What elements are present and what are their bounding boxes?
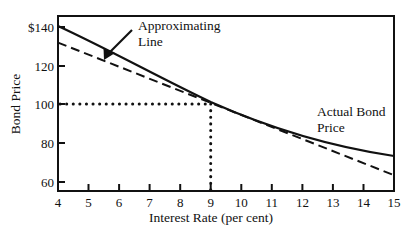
bond-price-chart: $140 120 100 80 60 4 5 6 7 8 9 10 11 12 … (0, 0, 417, 238)
y-tick-label: 80 (41, 136, 54, 151)
annotation-arrow (109, 30, 132, 53)
x-tick-label: 5 (85, 195, 92, 210)
y-tick-label: $140 (28, 20, 54, 35)
x-tick-label: 12 (296, 195, 309, 210)
x-tick-label: 15 (388, 195, 401, 210)
actual-bond-price-curve (58, 26, 394, 156)
x-axis-ticks (89, 184, 364, 191)
approximating-line-label-1: Approximating (138, 18, 221, 33)
approximating-line-label-2: Line (138, 34, 163, 49)
x-tick-label: 13 (326, 195, 339, 210)
y-tick-label: 120 (35, 59, 55, 74)
y-axis-tick-labels: $140 120 100 80 60 (28, 20, 54, 190)
x-tick-label: 4 (55, 195, 62, 210)
y-tick-label: 100 (35, 97, 55, 112)
x-axis-tick-labels: 4 5 6 7 8 9 10 11 12 13 14 15 (55, 195, 401, 210)
x-tick-label: 10 (235, 195, 248, 210)
x-tick-label: 6 (116, 195, 123, 210)
y-axis-title: Bond Price (8, 74, 23, 134)
x-tick-label: 9 (207, 195, 214, 210)
x-tick-label: 11 (266, 195, 279, 210)
x-tick-label: 8 (177, 195, 184, 210)
actual-price-label-2: Price (317, 120, 345, 135)
y-tick-label: 60 (41, 175, 54, 190)
x-tick-label: 7 (146, 195, 153, 210)
x-axis-title: Interest Rate (per cent) (149, 210, 273, 225)
actual-price-label-1: Actual Bond (317, 104, 386, 119)
x-tick-label: 14 (357, 195, 371, 210)
